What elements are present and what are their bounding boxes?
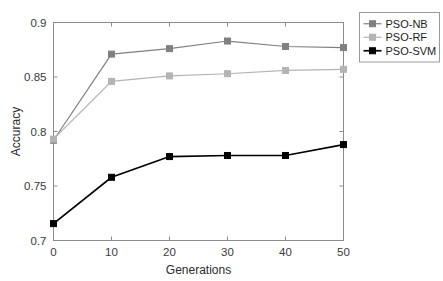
y-tick-label: 0.9 <box>31 17 47 29</box>
accuracy-vs-generations-line-chart: 010203040500.70.750.80.850.9 Generations… <box>0 0 443 281</box>
data-point-pso-svm <box>109 174 115 180</box>
data-point-pso-nb <box>283 43 289 49</box>
data-point-pso-svm <box>225 152 231 158</box>
y-tick-label: 0.7 <box>31 235 47 247</box>
plot-frame <box>54 23 344 241</box>
plot-axes: 010203040500.70.750.80.850.9 <box>24 17 350 258</box>
data-point-pso-rf <box>283 67 289 73</box>
data-point-pso-rf <box>167 73 173 79</box>
series-line-pso-rf <box>54 69 344 139</box>
x-tick-label: 10 <box>105 246 118 258</box>
x-axis-title: Generations <box>166 263 231 277</box>
x-tick-label: 30 <box>221 246 234 258</box>
data-point-pso-svm <box>51 221 57 227</box>
plot-series <box>51 38 347 227</box>
data-point-pso-nb <box>109 51 115 57</box>
legend-marker-pso-nb <box>370 21 376 27</box>
y-tick-label: 0.8 <box>31 126 47 138</box>
data-point-pso-svm <box>341 142 347 148</box>
data-point-pso-nb <box>341 45 347 51</box>
y-tick-label: 0.75 <box>24 180 46 192</box>
data-point-pso-rf <box>51 136 57 142</box>
legend-label-pso-rf[interactable]: PSO-RF <box>386 31 428 43</box>
data-point-pso-rf <box>225 71 231 77</box>
x-tick-label: 20 <box>163 246 176 258</box>
legend-marker-pso-svm <box>370 48 376 54</box>
y-axis-title: Accuracy <box>9 107 23 156</box>
data-point-pso-svm <box>283 152 289 158</box>
legend-label-pso-svm[interactable]: PSO-SVM <box>386 45 437 57</box>
y-tick-label: 0.85 <box>24 71 46 83</box>
legend-marker-pso-rf <box>370 34 376 40</box>
data-point-pso-rf <box>109 78 115 84</box>
chart-figure: 010203040500.70.750.80.850.9 Generations… <box>0 0 443 281</box>
data-point-pso-nb <box>167 46 173 52</box>
data-point-pso-rf <box>341 66 347 72</box>
x-tick-label: 40 <box>279 246 292 258</box>
series-line-pso-svm <box>54 145 344 224</box>
series-line-pso-nb <box>54 41 344 140</box>
data-point-pso-nb <box>225 38 231 44</box>
x-tick-label: 0 <box>50 246 56 258</box>
data-point-pso-svm <box>167 154 173 160</box>
chart-legend[interactable]: PSO-NBPSO-RFPSO-SVM <box>360 13 440 63</box>
x-tick-label: 50 <box>337 246 350 258</box>
legend-label-pso-nb[interactable]: PSO-NB <box>386 18 428 30</box>
